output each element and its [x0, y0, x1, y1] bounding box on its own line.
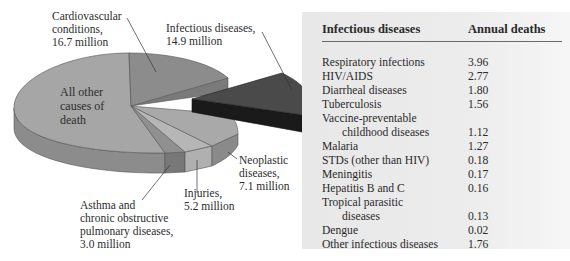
- label-infectious: Infectious diseases, 14.9 million: [166, 22, 255, 48]
- table-row: Malaria1.27: [322, 140, 562, 154]
- label-asthma: Asthma and chronic obstructive pulmonary…: [80, 199, 173, 251]
- table-body: Respiratory infections3.96 HIV/AIDS2.77 …: [322, 56, 562, 252]
- table-row: Diarrheal diseases1.80: [322, 84, 562, 98]
- table-row: Hepatitis B and C0.16: [322, 182, 562, 196]
- infectious-diseases-table: Infectious diseases Annual deaths Respir…: [302, 12, 570, 249]
- table-row: Other infectious diseases1.76: [322, 238, 562, 252]
- table-row: STDs (other than HIV)0.18: [322, 154, 562, 168]
- table-row: Respiratory infections3.96: [322, 56, 562, 70]
- label-cardiovascular: Cardiovascular conditions, 16.7 million: [52, 10, 122, 49]
- column-header-name: Infectious diseases: [322, 22, 420, 37]
- table-row: childhood diseases1.12: [322, 126, 562, 140]
- table-row: HIV/AIDS2.77: [322, 70, 562, 84]
- column-header-value: Annual deaths: [468, 22, 545, 37]
- table-row: Meningitis0.17: [322, 168, 562, 182]
- table-row: Tropical parasitic: [322, 196, 562, 210]
- label-injuries: Injuries, 5.2 million: [184, 187, 234, 213]
- label-neoplastic: Neoplastic diseases, 7.1 million: [239, 154, 289, 193]
- table-row: Dengue0.02: [322, 224, 562, 238]
- table-header: Infectious diseases Annual deaths: [322, 19, 562, 42]
- label-all-other: All other causes of death: [60, 85, 104, 127]
- pie-chart: Cardiovascular conditions, 16.7 million …: [0, 0, 310, 261]
- table-row: Vaccine-preventable: [322, 112, 562, 126]
- table-row: Tuberculosis1.56: [322, 98, 562, 112]
- table-row: diseases0.13: [322, 210, 562, 224]
